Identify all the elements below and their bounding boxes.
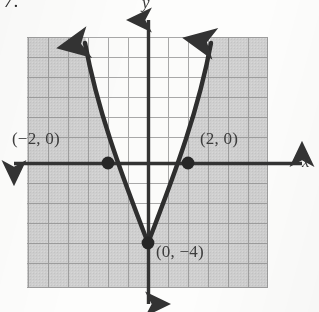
figure-root: 7. — [0, 0, 319, 312]
coordinate-plot — [0, 0, 319, 312]
point-left-root — [102, 157, 115, 170]
x-axis-label: x — [302, 153, 310, 170]
label-right-root: (2, 0) — [200, 130, 238, 147]
point-vertex — [142, 237, 155, 250]
point-right-root — [182, 157, 195, 170]
label-left-root: (−2, 0) — [12, 130, 60, 147]
y-axis-label: y — [142, 0, 150, 11]
label-vertex: (0, −4) — [156, 243, 204, 260]
